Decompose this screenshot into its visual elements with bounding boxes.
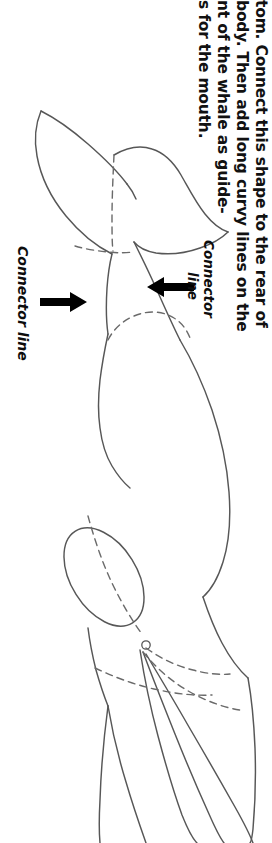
flipper-ellipse <box>47 514 160 641</box>
body-rear-right-outline-2 <box>248 678 255 843</box>
tail-fluke-notch <box>127 184 136 199</box>
connector-line-left-arrow <box>40 292 88 312</box>
tail-fluke-leading-edge <box>41 111 127 184</box>
connector-line-right-label-line1: Connector <box>202 240 216 318</box>
mouth-guide-dashed-3 <box>146 648 230 674</box>
connector-line-left-label: Connector line <box>15 246 30 361</box>
body-rear-right-outline <box>203 597 248 678</box>
drawing-tutorial-page: Connector line Connector line tom. Conne… <box>0 0 272 843</box>
mouth-guide-dashed-1 <box>95 668 212 695</box>
whale-line-drawing <box>0 0 272 843</box>
body-lower-left-outline <box>88 628 108 706</box>
mouth-guide-dashed-2 <box>143 652 240 710</box>
arrow-right-shape <box>40 292 87 312</box>
mouth-guide-curve-1 <box>140 650 197 843</box>
mouth-guide-curve-2 <box>143 652 224 843</box>
body-dorsal-outline <box>99 334 131 488</box>
jaw-outline <box>108 706 146 843</box>
body-flank-outline <box>180 340 230 597</box>
body-lower-left-outline-2 <box>99 706 108 843</box>
peduncle-upper-edge <box>106 254 112 334</box>
connector-line-right-label-line2: line <box>186 272 200 300</box>
connector-line-tail-dashed <box>112 155 114 251</box>
